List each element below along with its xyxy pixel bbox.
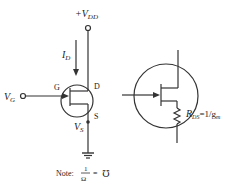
resistor-icon — [174, 108, 180, 124]
ground-icon — [82, 153, 94, 158]
vs-label: VS — [74, 121, 84, 134]
vg-terminal — [21, 94, 26, 99]
current-arrow-icon — [73, 69, 79, 76]
svg-text:=: = — [93, 169, 98, 178]
vdd-label: +VDD — [75, 8, 98, 21]
gate-label: G — [54, 83, 60, 92]
vdd-terminal — [86, 26, 91, 31]
unit-note: Note: 1 Ω = ℧ — [56, 165, 110, 183]
svg-text:1: 1 — [84, 165, 88, 173]
source-label: S — [94, 112, 98, 121]
svg-text:℧: ℧ — [102, 169, 110, 179]
circuit-diagram: +VDD ID D G S VG VS RDS=1/gm Note: 1 Ω =… — [0, 0, 236, 188]
source-node — [86, 120, 90, 124]
svg-text:Note:: Note: — [56, 169, 74, 178]
rds-label: RDS=1/gm — [185, 108, 221, 120]
drain-label: D — [94, 82, 100, 91]
vg-label: VG — [4, 91, 15, 104]
gate-arrow-icon — [153, 92, 160, 98]
right-equivalent-circuit — [122, 50, 198, 143]
id-label: ID — [61, 49, 70, 62]
svg-text:Ω: Ω — [81, 175, 86, 183]
gate-arrow-icon — [62, 93, 69, 99]
